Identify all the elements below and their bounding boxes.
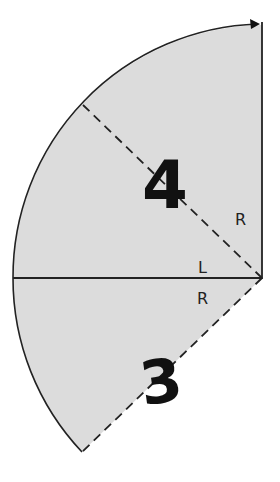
horizontal-radius-label-r: R <box>197 289 208 308</box>
region-4-label: 4 <box>142 147 188 224</box>
horizontal-radius-label-l: L <box>198 258 207 277</box>
sector-diagram: 4 3 R L R <box>0 0 280 482</box>
sector-fill <box>13 25 262 452</box>
upper-radius-label-r: R <box>235 210 246 229</box>
